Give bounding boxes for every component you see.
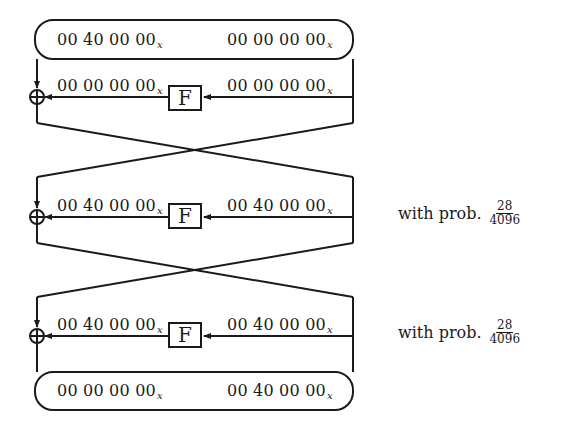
- input-right-text: 00 00 00 00: [227, 30, 326, 49]
- probability-fraction: 28 4096: [489, 319, 520, 345]
- round1-f-input-text: 00 00 00 00: [227, 76, 326, 95]
- round3-f-input-text: 00 40 00 00: [227, 315, 326, 334]
- hex-subscript: x: [327, 390, 333, 401]
- round2-probability: with prob. 28 4096: [398, 200, 520, 226]
- round2-f-input: 00 40 00 00x: [227, 198, 333, 216]
- round3-probability: with prob. 28 4096: [398, 319, 520, 345]
- round2-f-function-box: F: [168, 203, 202, 229]
- input-left-value: 00 40 00 00x: [57, 32, 163, 50]
- hex-subscript: x: [327, 85, 333, 96]
- probability-prefix: with prob.: [398, 204, 481, 223]
- input-left-text: 00 40 00 00: [57, 30, 156, 49]
- hex-subscript: x: [157, 205, 163, 216]
- probability-fraction: 28 4096: [489, 200, 520, 226]
- round2-f-input-text: 00 40 00 00: [227, 196, 326, 215]
- hex-subscript: x: [157, 390, 163, 401]
- hex-subscript: x: [327, 324, 333, 335]
- round3-f-output-text: 00 40 00 00: [57, 315, 156, 334]
- output-left-text: 00 00 00 00: [57, 381, 156, 400]
- hex-subscript: x: [327, 39, 333, 50]
- hex-subscript: x: [157, 39, 163, 50]
- output-right-value: 00 40 00 00x: [227, 383, 333, 401]
- round1-f-output: 00 00 00 00x: [57, 78, 163, 96]
- output-left-value: 00 00 00 00x: [57, 383, 163, 401]
- input-right-value: 00 00 00 00x: [227, 32, 333, 50]
- round2-f-output-text: 00 40 00 00: [57, 196, 156, 215]
- hex-subscript: x: [157, 324, 163, 335]
- probability-numerator: 28: [496, 319, 513, 333]
- round3-f-function-box: F: [168, 322, 202, 348]
- probability-prefix: with prob.: [398, 323, 481, 342]
- probability-denominator: 4096: [489, 333, 520, 346]
- hex-subscript: x: [157, 85, 163, 96]
- hex-subscript: x: [327, 205, 333, 216]
- round1-f-output-text: 00 00 00 00: [57, 76, 156, 95]
- output-right-text: 00 40 00 00: [227, 381, 326, 400]
- round3-f-output: 00 40 00 00x: [57, 317, 163, 335]
- probability-numerator: 28: [496, 200, 513, 214]
- probability-denominator: 4096: [489, 214, 520, 227]
- round2-f-output: 00 40 00 00x: [57, 198, 163, 216]
- round1-f-function-box: F: [168, 85, 202, 111]
- round1-f-input: 00 00 00 00x: [227, 78, 333, 96]
- round3-f-input: 00 40 00 00x: [227, 317, 333, 335]
